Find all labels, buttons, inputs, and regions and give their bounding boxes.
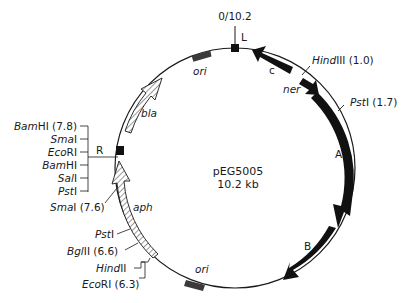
plasmid-name: pEG5005 bbox=[213, 165, 263, 178]
plasmid-size: 10.2 kb bbox=[217, 178, 258, 191]
gene-c-label: c bbox=[269, 64, 275, 76]
site-polylinker-4: SalI bbox=[58, 172, 77, 184]
site-psti-right: PstI (1.7) bbox=[350, 96, 397, 108]
site-bglii: BglII (6.6) bbox=[67, 245, 118, 257]
smai-tick bbox=[105, 188, 117, 203]
site-hindii: HindII bbox=[96, 262, 126, 274]
site-psti-aph: PstI bbox=[95, 228, 114, 240]
plasmid-map: 0/10.2 L ori c HindIII (1.0) ner A PstI … bbox=[0, 0, 407, 303]
origin-label: 0/10.2 bbox=[218, 10, 252, 22]
site-polylinker-2: EcoRI bbox=[48, 146, 77, 158]
site-smai: SmaI (7.6) bbox=[50, 201, 105, 213]
hindii-ecori-ticks bbox=[134, 258, 150, 278]
gene-aph-label: aph bbox=[133, 201, 153, 213]
gene-ner-label: ner bbox=[283, 83, 301, 95]
site-ecori: EcoRI (6.3) bbox=[82, 278, 139, 290]
site-hindiii: HindIII (1.0) bbox=[312, 54, 374, 66]
ori-bottom-label: ori bbox=[195, 263, 209, 275]
gene-bla-label: bla bbox=[141, 107, 157, 119]
psti-aph-tick bbox=[117, 229, 130, 234]
gene-B-label: B bbox=[304, 240, 311, 252]
gene-B-arrow bbox=[283, 226, 336, 280]
gene-ner-arrow bbox=[299, 78, 319, 95]
site-polylinker-1: SmaI bbox=[51, 133, 77, 145]
site-polylinker-5: PstI bbox=[58, 185, 77, 197]
marker-L-box bbox=[231, 44, 239, 52]
gene-A-arrow bbox=[311, 92, 354, 228]
gene-A-label: A bbox=[335, 148, 343, 160]
site-polylinker-0: BamHI (7.8) bbox=[14, 120, 77, 132]
marker-R-box bbox=[116, 146, 124, 155]
marker-R-label: R bbox=[96, 144, 103, 156]
site-polylinker-3: BamHI bbox=[42, 159, 77, 171]
marker-L-label: L bbox=[241, 31, 247, 43]
ori-bottom-block bbox=[184, 280, 205, 291]
polylinker-labels: BamHI (7.8) SmaI EcoRI BamHI SalI PstI bbox=[14, 120, 77, 197]
ori-top-label: ori bbox=[193, 65, 207, 77]
bglii-tick bbox=[125, 243, 138, 250]
gene-bla-arrow bbox=[125, 78, 162, 133]
polylinker-ticks bbox=[80, 126, 88, 191]
